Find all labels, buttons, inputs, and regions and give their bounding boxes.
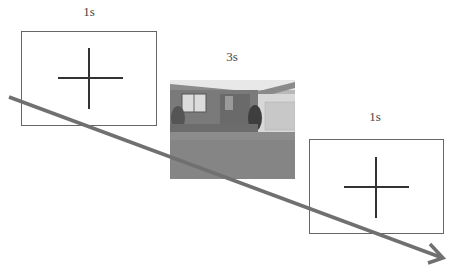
time-arrow xyxy=(0,0,454,271)
